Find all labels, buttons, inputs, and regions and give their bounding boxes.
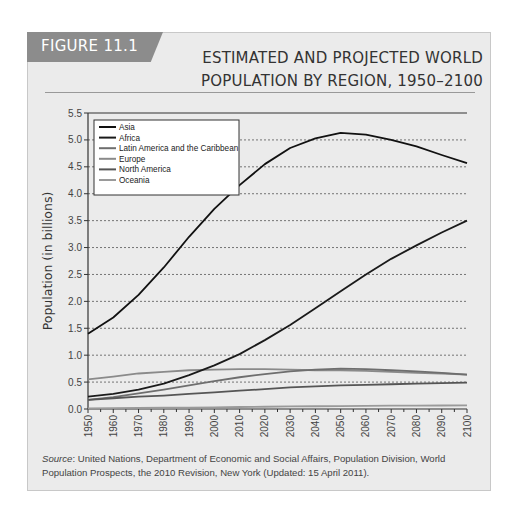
y-tick-label: 0.0 [68, 404, 82, 415]
series-line-oceania [88, 405, 467, 408]
x-tick-label: 1950 [83, 415, 94, 438]
x-tick-label: 1970 [133, 415, 144, 438]
x-tick-label: 2050 [335, 415, 346, 438]
line-chart: 0.00.51.01.52.02.53.03.54.04.55.05.51950… [0, 0, 518, 523]
x-tick-label: 2080 [411, 415, 422, 438]
y-tick-label: 1.0 [68, 350, 82, 361]
legend-item-label: Africa [119, 134, 140, 143]
y-tick-label: 5.5 [68, 108, 82, 119]
legend-item-label: Asia [119, 123, 135, 132]
x-tick-label: 1980 [158, 415, 169, 438]
y-tick-label: 3.0 [68, 242, 82, 253]
x-tick-label: 2090 [436, 415, 447, 438]
y-axis-label: Population (in billions) [40, 192, 55, 331]
legend-item-label: Oceania [119, 176, 150, 185]
x-tick-label: 2070 [386, 415, 397, 438]
y-tick-label: 1.5 [68, 323, 82, 334]
legend-item-label: North America [119, 165, 171, 174]
series-line-north-america [88, 383, 467, 400]
source-text: : United Nations, Department of Economic… [42, 453, 445, 478]
legend-box [94, 120, 239, 195]
x-tick-label: 2000 [209, 415, 220, 438]
source-note: Source: United Nations, Department of Ec… [42, 452, 482, 480]
x-tick-label: 2020 [259, 415, 270, 438]
x-tick-label: 1990 [184, 415, 195, 438]
legend-item-label: Europe [119, 155, 146, 164]
y-tick-label: 5.0 [68, 134, 82, 145]
legend-item-label: Latin America and the Caribbean [119, 144, 239, 153]
y-tick-label: 2.5 [68, 269, 82, 280]
y-tick-label: 2.0 [68, 296, 82, 307]
x-tick-label: 1960 [108, 415, 119, 438]
source-label: Source [42, 453, 72, 464]
legend: AsiaAfricaLatin America and the Caribbea… [94, 120, 239, 195]
x-tick-label: 2100 [462, 415, 473, 438]
y-tick-label: 4.5 [68, 161, 82, 172]
x-tick-label: 2040 [310, 415, 321, 438]
x-tick-label: 2010 [234, 415, 245, 438]
x-tick-label: 2060 [360, 415, 371, 438]
y-tick-label: 4.0 [68, 188, 82, 199]
y-tick-label: 0.5 [68, 377, 82, 388]
y-tick-label: 3.5 [68, 215, 82, 226]
x-tick-label: 2030 [285, 415, 296, 438]
